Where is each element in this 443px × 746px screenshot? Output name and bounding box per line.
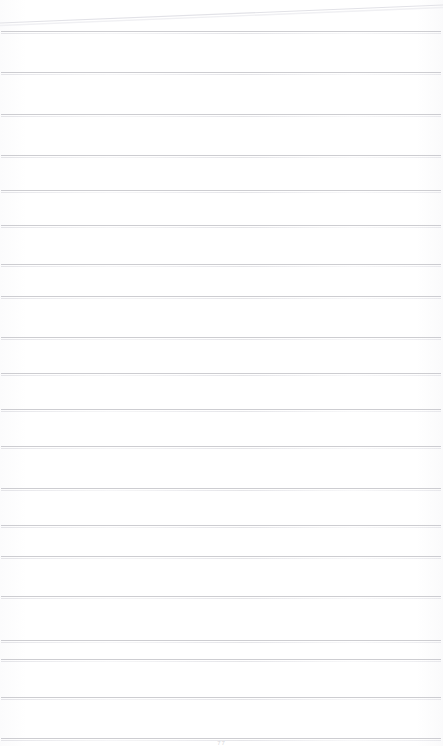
rule-line (1, 225, 441, 226)
rule-line (1, 72, 441, 73)
rule-line (1, 659, 441, 660)
rule-line (1, 190, 441, 191)
rule-line (1, 155, 441, 156)
rule-line (1, 640, 441, 641)
rule-line (1, 296, 441, 297)
rule-line (1, 337, 441, 338)
top-sheet-edge-icon (0, 0, 443, 34)
rule-line (1, 373, 441, 374)
paper-surface (0, 0, 443, 746)
scanned-page: 77 (0, 0, 443, 746)
rule-line (1, 409, 441, 410)
rule-line (1, 31, 441, 32)
rule-line (1, 488, 441, 489)
rule-line (1, 738, 441, 739)
rule-line (1, 697, 441, 698)
rule-line (1, 596, 441, 597)
rule-line (1, 114, 441, 115)
rule-line (1, 556, 441, 557)
rule-line (1, 264, 441, 265)
rule-line (1, 525, 441, 526)
page-number: 77 (0, 740, 443, 746)
rule-line (1, 446, 441, 447)
